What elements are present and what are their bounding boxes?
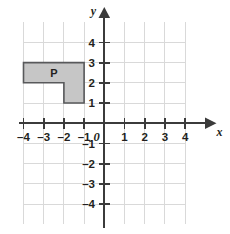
x-tick-label-2: 2	[141, 131, 147, 143]
coordinate-plane-figure: P	[0, 0, 230, 234]
shape-p: P	[24, 63, 85, 103]
origin-label: 0	[93, 130, 100, 144]
y-tick-label-3: 3	[89, 57, 95, 69]
y-tick-label--2: –2	[82, 158, 95, 170]
y-tick-label--4: –4	[82, 198, 95, 210]
coordinate-plane-svg: P	[0, 0, 230, 234]
y-tick-label-1: 1	[89, 97, 96, 109]
axes	[19, 18, 205, 228]
y-axis-arrow-icon	[99, 7, 111, 18]
x-tick-label--3: –3	[37, 131, 50, 143]
x-tick-label--2: –2	[58, 131, 71, 143]
x-axis-arrow-icon	[205, 117, 217, 129]
x-tick-label-3: 3	[162, 131, 168, 143]
x-axis-tick-labels: –4 –3 –2 –1 1 2 3 4	[17, 131, 189, 143]
axis-arrowheads	[99, 7, 217, 129]
y-tick-label-2: 2	[89, 77, 95, 89]
shape-p-label: P	[50, 67, 57, 79]
x-axis-label: x	[216, 125, 223, 139]
x-tick-label-4: 4	[182, 131, 189, 143]
x-tick-label--4: –4	[17, 131, 30, 143]
y-tick-label-4: 4	[89, 37, 96, 49]
y-tick-label--3: –3	[82, 178, 95, 190]
x-tick-label-1: 1	[121, 131, 128, 143]
y-axis-label: y	[89, 4, 97, 18]
